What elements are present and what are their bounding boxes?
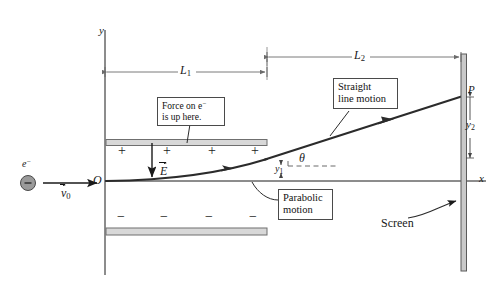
y1-subscript: 1 <box>279 168 283 176</box>
dimension-label-L2: L2 <box>354 49 365 64</box>
callout-parabolic-motion: Parabolic motion <box>278 189 333 220</box>
trajectory-arrowhead-plates <box>221 165 234 171</box>
top-plate-charge-4: + <box>251 143 259 159</box>
L1-subscript: 1 <box>187 68 191 78</box>
electron-charge-sign: − <box>26 158 30 166</box>
callout-parabolic-line2: motion <box>283 204 328 216</box>
origin-label: O <box>93 174 102 188</box>
top-plate-charge-3: + <box>208 143 216 159</box>
bottom-plate-charge-3: − <box>205 209 213 225</box>
L2-subscript: 2 <box>361 53 365 63</box>
angle-reference-line <box>288 161 337 166</box>
dimension-label-L1: L1 <box>180 64 191 79</box>
top-plate-charge-1: + <box>118 143 126 159</box>
initial-velocity-label: v0 <box>61 187 71 202</box>
dimension-label-y2: y2 <box>466 118 475 132</box>
y-axis-label: y <box>99 24 104 37</box>
L2-symbol: L <box>354 48 361 62</box>
straight-callout-leader <box>330 111 349 136</box>
callout-force-on-electron: Force on e− is up here. <box>157 97 225 126</box>
callout-force-superscript: − <box>202 100 207 107</box>
y2-subscript: 2 <box>471 123 475 132</box>
callout-straight-line1: Straight <box>338 81 393 93</box>
top-plate <box>106 140 267 146</box>
bottom-plate-charge-4: − <box>249 209 257 225</box>
x-axis-label: x <box>479 172 484 185</box>
electric-field-label: E <box>160 165 167 179</box>
callout-force-line1-text: Force on e <box>162 101 202 111</box>
bottom-plate-charge-2: − <box>160 209 168 225</box>
L1-symbol: L <box>180 63 187 77</box>
trajectory-arrowhead-straight <box>378 116 394 124</box>
screen-label: Screen <box>381 217 414 231</box>
bottom-plate <box>106 228 267 235</box>
velocity-symbol: v <box>61 186 66 200</box>
parabolic-callout-leader <box>252 182 278 200</box>
callout-straight-line2: line motion <box>338 93 393 105</box>
figure-canvas: y x O e− v0 E + + + + − − − − L1 L2 y1 y… <box>0 0 502 299</box>
bottom-plate-charge-1: − <box>117 209 125 225</box>
angle-theta-label: θ <box>299 152 305 166</box>
velocity-subscript: 0 <box>66 191 70 201</box>
dimension-label-y1: y1 <box>275 163 283 176</box>
electron-particle <box>21 176 36 191</box>
point-P-label: P <box>468 83 475 96</box>
callout-force-line2: is up here. <box>162 112 220 123</box>
field-symbol: E <box>160 164 167 178</box>
top-plate-charge-2: + <box>163 143 171 159</box>
callout-force-line1: Force on e− <box>162 100 220 112</box>
trajectory-parabolic <box>106 159 267 181</box>
screen-callout-arrow <box>408 201 456 218</box>
callout-straight-line-motion: Straight line motion <box>333 78 398 109</box>
screen-bar <box>461 54 467 271</box>
electron-symbol-label: e− <box>22 158 31 170</box>
callout-parabolic-line1: Parabolic <box>283 192 328 204</box>
